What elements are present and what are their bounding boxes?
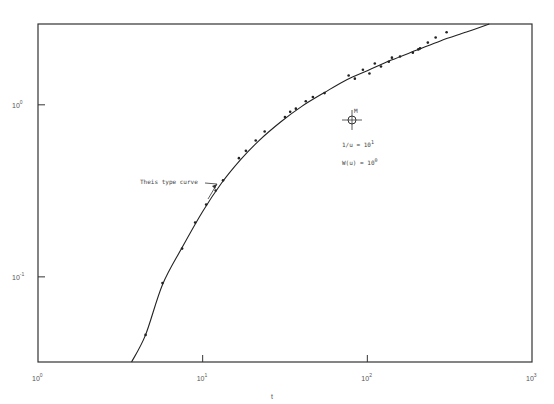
data-point <box>289 111 292 114</box>
y-tick-base: 10 <box>12 102 20 109</box>
theis-type-curve <box>132 24 490 362</box>
y-tick-label: 10-1 <box>12 271 24 281</box>
match-values: 1/u = 101 W(u) = 100 <box>342 139 378 166</box>
data-point <box>323 92 326 95</box>
data-point <box>263 130 266 133</box>
data-point <box>412 51 415 54</box>
x-tick-exp: 0 <box>40 372 43 378</box>
data-point <box>312 96 315 99</box>
data-point <box>373 62 376 65</box>
theis-curve-label: Theis type curve <box>140 178 198 186</box>
y-tick-exp: 0 <box>20 99 23 105</box>
data-point <box>434 36 437 39</box>
data-point <box>254 139 257 142</box>
x-tick-exp: 1 <box>204 372 207 378</box>
data-point <box>347 74 350 77</box>
x-tick-base: 10 <box>526 375 534 382</box>
plot-frame <box>38 24 532 362</box>
y-tick-base: 10 <box>12 274 20 281</box>
data-point <box>222 179 225 182</box>
x-tick-label: 103 <box>526 372 537 382</box>
data-point <box>295 107 298 110</box>
theis-curve-layer <box>132 24 490 362</box>
theis-label-annotation: Theis type curve <box>140 178 217 199</box>
x-tick-exp: 2 <box>369 372 372 378</box>
x-tick-base: 10 <box>361 375 369 382</box>
data-point <box>284 116 287 119</box>
wu-exp: 0 <box>375 157 378 163</box>
data-point <box>391 56 394 59</box>
wu-label: W(u) = 100 <box>342 157 378 166</box>
x-tick-label: 101 <box>197 372 208 382</box>
data-point <box>194 221 197 224</box>
data-point <box>305 100 308 103</box>
wu-text: W(u) = 10 <box>342 159 375 166</box>
y-tick-label: 100 <box>12 99 23 109</box>
x-tick-base: 10 <box>32 375 40 382</box>
data-point <box>380 65 383 68</box>
x-axis-ticks: 100101102103 <box>32 355 537 382</box>
inv-u-text: 1/u = 10 <box>342 141 371 148</box>
inv-u-exp: 1 <box>371 139 374 145</box>
data-point <box>181 247 184 250</box>
data-point <box>161 282 164 285</box>
data-point <box>419 47 422 50</box>
data-point <box>144 334 147 337</box>
data-point <box>387 60 390 63</box>
x-axis-label: t <box>271 393 273 400</box>
data-point <box>214 189 217 192</box>
data-point <box>354 77 357 80</box>
y-axis-ticks: 10010-1 <box>12 99 45 281</box>
match-point: M <box>342 107 362 130</box>
inv-u-label: 1/u = 101 <box>342 139 374 148</box>
chart: 100101102103 10010-1 Theis type curve M … <box>0 0 554 404</box>
x-tick-base: 10 <box>197 375 205 382</box>
data-point <box>445 31 448 34</box>
data-point <box>238 157 241 160</box>
theis-label-leader <box>205 183 217 184</box>
data-point <box>368 72 371 75</box>
x-tick-label: 102 <box>361 372 372 382</box>
plot-border <box>38 24 532 362</box>
data-point <box>427 41 430 44</box>
y-tick-exp: -1 <box>20 271 25 277</box>
data-point <box>362 68 365 71</box>
data-point <box>245 150 248 153</box>
data-point <box>399 55 402 58</box>
data-point <box>205 203 208 206</box>
match-point-label: M <box>354 107 358 114</box>
arrowhead-icon <box>212 184 217 189</box>
x-tick-label: 100 <box>32 372 43 382</box>
x-tick-exp: 3 <box>534 372 537 378</box>
